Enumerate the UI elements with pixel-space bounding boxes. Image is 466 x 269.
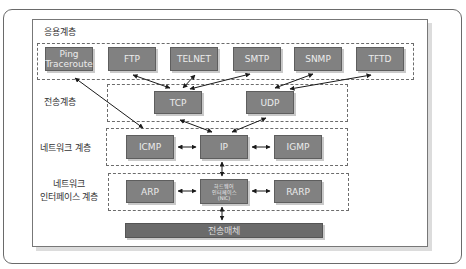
application-layer-label: 응용계층	[44, 26, 76, 39]
traceroute-label: Traceroute	[45, 59, 93, 69]
transmission-medium-bar: 전송매체	[125, 223, 323, 238]
interface-layer-label-line1: 네트워크	[37, 178, 101, 191]
protocol-icmp: ICMP	[126, 135, 174, 159]
interface-layer-label-line2: 인터페이스 계층	[37, 191, 101, 204]
hardware-line3: (NIC)	[212, 195, 237, 201]
interface-layer-label: 네트워크 인터페이스 계층	[37, 178, 101, 204]
ping-label: Ping	[45, 49, 93, 59]
protocol-udp: UDP	[246, 91, 294, 114]
protocol-ftp: FTP	[108, 47, 156, 71]
hardware-interface-nic: 하드웨어 인터페이스 (NIC)	[200, 179, 248, 204]
protocol-ping-traceroute: Ping Traceroute	[45, 47, 93, 71]
protocol-smtp: SMTP	[233, 47, 281, 71]
protocol-arp: ARP	[126, 180, 174, 203]
hardware-line2: 인터페이스	[212, 189, 237, 195]
protocol-igmp: IGMP	[274, 135, 322, 159]
protocol-telnet: TELNET	[170, 47, 218, 71]
protocol-tcp: TCP	[154, 91, 202, 114]
protocol-snmp: SNMP	[294, 47, 342, 71]
network-layer-label: 네트워크 계층	[40, 142, 91, 155]
hardware-line1: 하드웨어	[212, 183, 237, 189]
transport-layer-group	[107, 84, 348, 122]
protocol-tftd: TFTD	[356, 47, 404, 71]
transport-layer-label: 전송계층	[44, 96, 76, 109]
protocol-ip: IP	[200, 135, 248, 159]
protocol-rarp: RARP	[274, 180, 322, 203]
